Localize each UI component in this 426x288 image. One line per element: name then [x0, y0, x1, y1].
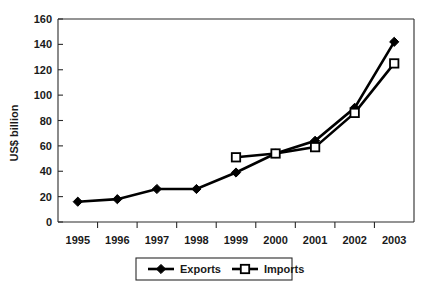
data-point-imports [350, 109, 358, 117]
y-axis-tick-label: 120 [34, 64, 52, 76]
y-axis-tick-label: 80 [40, 115, 52, 127]
data-point-imports [311, 143, 319, 151]
x-axis-tick-label: 1998 [184, 234, 208, 246]
y-axis-title: US$ billion [8, 104, 20, 161]
data-point-imports [390, 59, 398, 67]
legend-marker-imports [241, 265, 249, 273]
y-axis-tick-label: 20 [40, 191, 52, 203]
x-axis-tick-label: 1996 [105, 234, 129, 246]
legend-label-exports: Exports [180, 263, 221, 275]
y-axis-tick-label: 60 [40, 140, 52, 152]
y-axis-tick-label: 40 [40, 165, 52, 177]
x-axis-tick-label: 1999 [224, 234, 248, 246]
x-axis-tick-label: 1995 [66, 234, 90, 246]
chart-legend: ExportsImports [136, 258, 304, 280]
y-axis-tick-label: 140 [34, 38, 52, 50]
legend-label-imports: Imports [264, 263, 304, 275]
x-axis-tick-label: 2002 [342, 234, 366, 246]
chart-canvas: US$ billion 020406080100120140160 199519… [0, 0, 426, 288]
line-chart: US$ billion 020406080100120140160 199519… [0, 0, 426, 288]
y-axis-tick-label: 160 [34, 13, 52, 25]
x-axis-tick-label: 1997 [145, 234, 169, 246]
data-point-imports [232, 153, 240, 161]
data-point-imports [271, 149, 279, 157]
y-axis-tick-label: 100 [34, 89, 52, 101]
x-axis-tick-label: 2001 [303, 234, 327, 246]
x-axis-tick-label: 2000 [263, 234, 287, 246]
x-axis-tick-label: 2003 [382, 234, 406, 246]
y-axis-title-label: US$ billion [8, 104, 20, 161]
x-axis-tick-labels: 199519961997199819992000200120022003 [66, 234, 407, 246]
y-axis-tick-label: 0 [46, 216, 52, 228]
